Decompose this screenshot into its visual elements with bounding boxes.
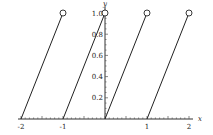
y-axis-label: y [102,0,108,8]
chart: -2-1120.20.40.60.81.0xy [0,0,213,135]
x-tick-label: 1 [145,123,149,131]
series-line [105,16,146,119]
y-tick-label: 0.6 [92,52,104,60]
x-tick-label: -1 [60,123,67,131]
x-tick-label: -2 [18,123,25,131]
open-endpoint-marker [102,10,108,16]
series-line [21,16,62,119]
open-endpoint-marker [60,10,66,16]
open-endpoint-marker [186,10,192,16]
x-tick-label: 2 [187,123,191,131]
y-tick-label: 0.2 [92,94,103,102]
open-endpoint-marker [144,10,150,16]
plot-area: -2-1120.20.40.60.81.0xy [0,0,213,135]
series-line [63,16,104,119]
y-tick-label: 1.0 [92,10,103,18]
x-axis-label: x [198,115,202,123]
y-tick-label: 0.4 [92,73,104,81]
series-line [147,16,188,119]
